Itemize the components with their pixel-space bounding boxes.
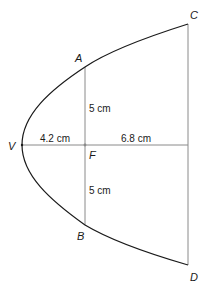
label-v: V bbox=[8, 140, 17, 152]
parabola-diagram: V A B C D F 4.2 cm 6.8 cm 5 cm 5 cm bbox=[0, 0, 208, 295]
label-a: A bbox=[74, 52, 82, 64]
dim-f-to-cd: 6.8 cm bbox=[121, 133, 151, 144]
focus-point-marker bbox=[84, 144, 87, 147]
dim-vf: 4.2 cm bbox=[40, 133, 70, 144]
dim-fa: 5 cm bbox=[89, 103, 111, 114]
vertex-point-marker bbox=[21, 144, 23, 146]
label-f: F bbox=[89, 149, 97, 161]
label-d: D bbox=[190, 271, 198, 283]
dim-fb: 5 cm bbox=[89, 185, 111, 196]
label-c: C bbox=[190, 9, 198, 21]
label-b: B bbox=[77, 230, 84, 242]
